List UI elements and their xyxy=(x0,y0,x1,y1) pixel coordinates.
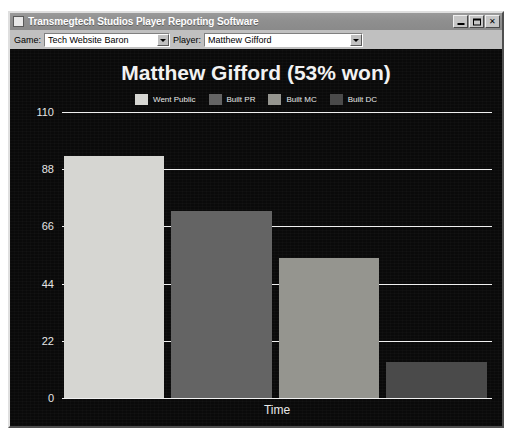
bar-series xyxy=(62,112,492,398)
legend-swatch xyxy=(330,94,343,105)
maximize-button[interactable] xyxy=(469,15,484,28)
close-icon: ✕ xyxy=(489,18,496,26)
chart-title: Matthew Gifford (53% won) xyxy=(10,61,502,85)
y-axis-tick-label: 66 xyxy=(42,220,54,232)
legend-item[interactable]: Built MC xyxy=(268,94,316,105)
legend-swatch xyxy=(135,94,148,105)
game-label: Game: xyxy=(14,35,41,45)
chevron-down-icon[interactable] xyxy=(350,34,362,46)
close-button[interactable]: ✕ xyxy=(485,15,500,28)
player-select[interactable]: Matthew Gifford xyxy=(204,33,363,47)
y-axis-tick-label: 44 xyxy=(42,278,54,290)
gridline xyxy=(62,398,492,399)
legend-item[interactable]: Built DC xyxy=(330,94,377,105)
bar[interactable] xyxy=(386,362,487,398)
legend-label: Built PR xyxy=(227,95,256,104)
app-icon xyxy=(13,16,24,27)
toolbar: Game: Tech Website Baron Player: Matthew… xyxy=(10,30,502,49)
application-window: Transmegtech Studios Player Reporting So… xyxy=(8,11,504,428)
game-select-value: Tech Website Baron xyxy=(45,35,157,45)
window-title: Transmegtech Studios Player Reporting So… xyxy=(28,16,452,27)
player-select-value: Matthew Gifford xyxy=(205,35,350,45)
bar[interactable] xyxy=(64,156,165,398)
x-axis-label: Time xyxy=(62,403,492,417)
y-axis-tick-label: 22 xyxy=(42,335,54,347)
legend-label: Built MC xyxy=(286,95,316,104)
y-axis-tick-label: 0 xyxy=(48,392,54,404)
legend-swatch xyxy=(268,94,281,105)
bar[interactable] xyxy=(171,211,272,398)
legend-item[interactable]: Built PR xyxy=(209,94,256,105)
chart-legend: Went PublicBuilt PRBuilt MCBuilt DC xyxy=(10,94,502,105)
legend-swatch xyxy=(209,94,222,105)
minimize-button[interactable] xyxy=(453,15,468,28)
legend-label: Went Public xyxy=(153,95,196,104)
legend-label: Built DC xyxy=(348,95,377,104)
game-select[interactable]: Tech Website Baron xyxy=(44,33,170,47)
bar[interactable] xyxy=(279,258,380,398)
title-bar: Transmegtech Studios Player Reporting So… xyxy=(10,13,502,30)
plot-area: 110886644220 Time xyxy=(62,112,492,398)
player-label: Player: xyxy=(173,35,201,45)
chevron-down-icon[interactable] xyxy=(157,34,169,46)
y-axis-tick-label: 88 xyxy=(42,163,54,175)
y-axis-tick-label: 110 xyxy=(36,106,54,118)
legend-item[interactable]: Went Public xyxy=(135,94,196,105)
chart-canvas: Matthew Gifford (53% won) Went PublicBui… xyxy=(10,49,502,426)
